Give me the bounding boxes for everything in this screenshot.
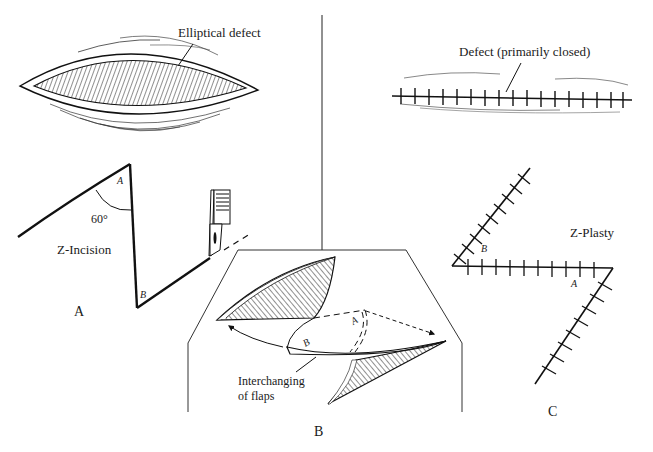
z-incision-label: Z-Incision <box>57 243 111 256</box>
incision-point-b-label: B <box>140 289 146 300</box>
interchanging-label-line1: Interchanging <box>238 375 305 387</box>
elliptical-defect-illustration <box>20 36 258 131</box>
defect-closed-label: Defect (primarily closed) <box>459 45 590 58</box>
interchanging-label-line2: of flaps <box>238 390 274 402</box>
closed-defect-illustration <box>392 63 632 113</box>
panel-a-letter: A <box>74 305 84 319</box>
plasty-point-b-label: B <box>481 243 487 254</box>
panel-b-letter: B <box>314 425 323 439</box>
z-plasty-label: Z-Plasty <box>570 226 614 239</box>
angle-label: 60° <box>91 213 108 225</box>
panel-c-letter: C <box>548 405 557 419</box>
plasty-point-a-label: A <box>571 278 577 289</box>
z-plasty-sutured-illustration <box>452 168 613 384</box>
incision-point-a-label: A <box>117 175 123 186</box>
elliptical-defect-label: Elliptical defect <box>178 26 261 39</box>
z-plasty-diagram <box>0 0 653 452</box>
scalpel-icon <box>209 190 230 256</box>
z-incision-illustration <box>18 164 250 308</box>
